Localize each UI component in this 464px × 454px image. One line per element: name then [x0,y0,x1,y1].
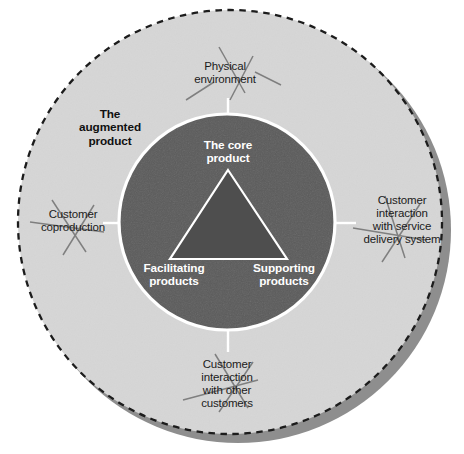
label-facilitating-products: Facilitating products [122,262,226,289]
label-customer-interaction-other-customers: Customer interaction with other customer… [162,358,292,410]
label-customer-coproduction: Customer coproduction [8,208,138,234]
label-physical-environment: Physical environment [160,60,290,86]
label-core-product: The core product [172,139,284,166]
service-product-diagram: Physical environment Customer coproducti… [0,0,464,454]
label-supporting-products: Supporting products [232,262,336,289]
label-customer-interaction-service-delivery: Customer interaction with service delive… [340,194,464,246]
label-augmented-product: The augmented product [58,108,162,148]
